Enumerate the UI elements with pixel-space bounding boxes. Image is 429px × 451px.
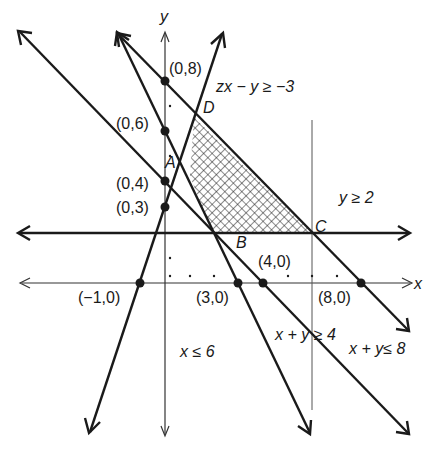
lp-diagram: y x (0,8) (0,6) (0,4) (0,3) (−1,0) (3,0)… <box>0 0 429 451</box>
dot-4-0 <box>259 279 268 288</box>
vertex-d: D <box>203 99 215 116</box>
label-0-3: (0,3) <box>116 199 149 216</box>
label-3-0: (3,0) <box>196 289 229 306</box>
constraint-x-plus-y-le-8: x + y≤ 8 <box>348 340 405 357</box>
dot-0-4 <box>161 177 170 186</box>
label-0-8: (0,8) <box>169 60 202 77</box>
constraint-x-plus-y-ge-4: x + y ≥ 4 <box>274 326 336 343</box>
label-4-0: (4,0) <box>258 253 291 270</box>
constraint-zx-minus-y: zx − y ≥ −3 <box>215 78 294 95</box>
y-axis-label: y <box>159 8 169 25</box>
dot-0-3 <box>161 203 170 212</box>
label-8-0: (8,0) <box>318 289 351 306</box>
label-neg1-0: (−1,0) <box>78 289 120 306</box>
dot-neg1-0 <box>136 279 145 288</box>
vertex-a: A <box>164 154 176 171</box>
label-0-4: (0,4) <box>116 175 149 192</box>
dot-0-8 <box>161 77 170 86</box>
dot-8-0 <box>357 279 366 288</box>
label-0-6: (0,6) <box>116 115 149 132</box>
feasible-region <box>190 117 312 233</box>
vertex-c: C <box>315 218 327 235</box>
dot-0-6 <box>161 127 170 136</box>
constraint-y-ge-2: y ≥ 2 <box>338 189 374 206</box>
constraint-x-le-6: x ≤ 6 <box>179 343 215 360</box>
vertex-b: B <box>236 234 247 251</box>
x-axis <box>20 278 412 288</box>
dot-3-0 <box>234 279 243 288</box>
x-axis-label: x <box>413 275 423 292</box>
